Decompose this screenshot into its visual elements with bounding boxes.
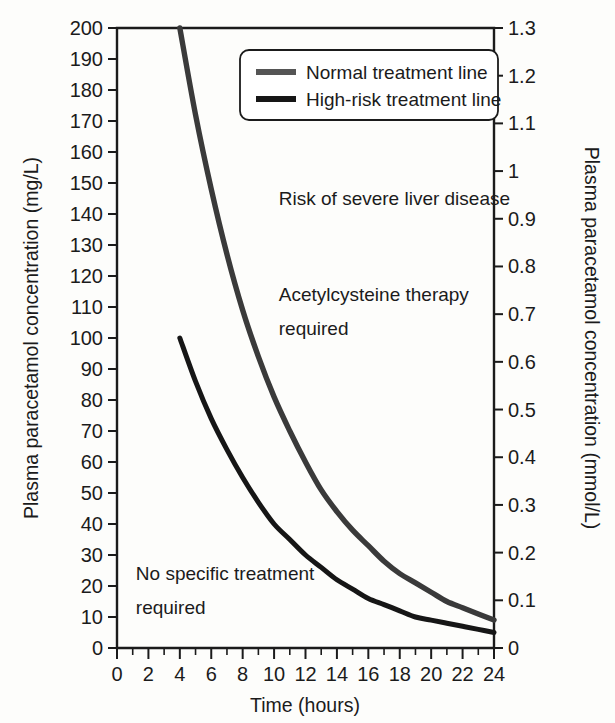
x-axis-tick-label: 6 bbox=[206, 663, 217, 685]
y-axis-left-tick-label: 120 bbox=[70, 265, 103, 287]
y-axis-left-tick-label: 160 bbox=[70, 141, 103, 163]
y-axis-left-tick-label: 110 bbox=[71, 296, 103, 318]
plot-annotation-text: required bbox=[136, 597, 206, 618]
y-axis-right-tick-label: 0.6 bbox=[508, 351, 536, 373]
y-axis-right-tick-label: 1.2 bbox=[508, 65, 536, 87]
y-axis-left-tick-label: 0 bbox=[92, 637, 103, 659]
y-axis-right-tick-label: 0.5 bbox=[508, 399, 536, 421]
x-axis-title: Time (hours) bbox=[250, 694, 360, 716]
y-axis-right-labels: 00.10.20.30.40.50.60.70.80.911.11.21.3 bbox=[508, 17, 536, 659]
x-axis-tick-label: 18 bbox=[389, 663, 411, 685]
y-axis-left-tick-label: 90 bbox=[81, 358, 103, 380]
plot-annotation-text: required bbox=[279, 318, 349, 339]
y-axis-left-labels: 0102030405060708090100110120130140150160… bbox=[70, 17, 103, 659]
x-axis-tick-label: 4 bbox=[174, 663, 185, 685]
y-axis-left-tick-label: 100 bbox=[70, 327, 103, 349]
y-axis-right-tick-label: 0.8 bbox=[508, 255, 536, 277]
y-axis-left-tick-label: 70 bbox=[81, 420, 103, 442]
y-axis-left-tick-label: 180 bbox=[70, 79, 103, 101]
y-axis-right-title: Plasma paracetamol concentration (mmol/L… bbox=[581, 147, 603, 530]
y-axis-left-tick-label: 200 bbox=[70, 17, 103, 39]
chart-legend: Normal treatment line High-risk treatmen… bbox=[240, 50, 501, 120]
x-axis-labels: 024681012141618202224 bbox=[111, 663, 505, 685]
chart-canvas: 0102030405060708090100110120130140150160… bbox=[0, 0, 615, 723]
legend-label-normal: Normal treatment line bbox=[306, 62, 488, 83]
y-axis-right-tick-label: 1.3 bbox=[508, 17, 536, 39]
y-axis-right-tick-label: 0.2 bbox=[508, 542, 536, 564]
y-axis-left-tick-label: 130 bbox=[70, 234, 103, 256]
x-axis-tick-label: 14 bbox=[326, 663, 348, 685]
legend-label-highrisk: High-risk treatment line bbox=[306, 89, 501, 110]
y-axis-left-tick-label: 20 bbox=[81, 575, 103, 597]
y-axis-right-tick-label: 1.1 bbox=[508, 112, 536, 134]
y-axis-left-tick-label: 30 bbox=[81, 544, 103, 566]
y-axis-right-tick-label: 0 bbox=[508, 637, 519, 659]
y-axis-right-tick-label: 0.7 bbox=[508, 303, 536, 325]
x-axis-tick-label: 0 bbox=[111, 663, 122, 685]
y-axis-left-tick-label: 170 bbox=[70, 110, 103, 132]
x-axis-tick-label: 10 bbox=[263, 663, 285, 685]
y-axis-left-tick-label: 50 bbox=[81, 482, 103, 504]
x-axis-tick-label: 20 bbox=[420, 663, 442, 685]
y-axis-left-tick-label: 10 bbox=[81, 606, 103, 628]
y-axis-right-tick-label: 0.3 bbox=[508, 494, 536, 516]
y-axis-right-tick-label: 0.4 bbox=[508, 446, 536, 468]
y-axis-left-ticks bbox=[108, 28, 117, 648]
x-axis-tick-label: 24 bbox=[483, 663, 505, 685]
x-axis-tick-label: 8 bbox=[237, 663, 248, 685]
x-axis-tick-label: 2 bbox=[143, 663, 154, 685]
y-axis-right-tick-label: 1 bbox=[508, 160, 519, 182]
plot-annotation-text: No specific treatment bbox=[136, 563, 315, 584]
y-axis-left-tick-label: 190 bbox=[70, 48, 103, 70]
y-axis-right-ticks bbox=[494, 28, 503, 648]
x-axis-tick-label: 12 bbox=[294, 663, 316, 685]
nomogram-chart: 0102030405060708090100110120130140150160… bbox=[0, 0, 615, 723]
plot-annotation-text: Risk of severe liver disease bbox=[279, 188, 510, 209]
plot-annotation-text: Acetylcysteine therapy bbox=[279, 284, 470, 305]
x-axis-ticks bbox=[117, 648, 494, 659]
plot-annotations: Risk of severe liver diseaseAcetylcystei… bbox=[136, 188, 510, 618]
y-axis-left-tick-label: 150 bbox=[70, 172, 103, 194]
y-axis-left-tick-label: 80 bbox=[81, 389, 103, 411]
x-axis-tick-label: 22 bbox=[451, 663, 473, 685]
y-axis-right-tick-label: 0.9 bbox=[508, 208, 536, 230]
y-axis-left-tick-label: 140 bbox=[70, 203, 103, 225]
y-axis-right-tick-label: 0.1 bbox=[508, 589, 536, 611]
y-axis-left-title: Plasma paracetamol concentration (mg/L) bbox=[20, 157, 42, 519]
y-axis-left-tick-label: 40 bbox=[81, 513, 103, 535]
curve-high-risk-treatment-line bbox=[180, 338, 494, 633]
x-axis-tick-label: 16 bbox=[357, 663, 379, 685]
y-axis-left-tick-label: 60 bbox=[81, 451, 103, 473]
